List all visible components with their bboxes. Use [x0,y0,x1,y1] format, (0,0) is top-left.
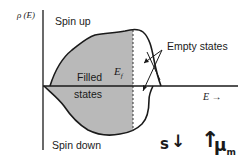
spin-density-of-states-diagram: ρ (E) Spin up Filled states Ef Empty sta… [0,0,246,165]
filled-states-label-line2: states [74,89,102,100]
fermi-level-symbol: E [114,65,121,77]
spin-symbol: s [160,137,169,152]
moment-symbol: μ [214,135,227,155]
y-axis-label: ρ (E) [17,11,35,20]
filled-states-label-line1: Filled [77,72,102,83]
fermi-level-label: Ef [114,66,123,80]
spin-down-label: Spin down [52,140,101,151]
spin-up-label: Spin up [55,16,91,27]
empty-states-label: Empty states [167,41,228,52]
magnetic-moment-label: μm [214,137,236,157]
moment-subscript: m [227,147,236,157]
fermi-level-subscript: f [121,72,123,80]
x-axis-label: E → [203,92,222,102]
spin-down-arrow-icon: ↓ [171,133,185,150]
